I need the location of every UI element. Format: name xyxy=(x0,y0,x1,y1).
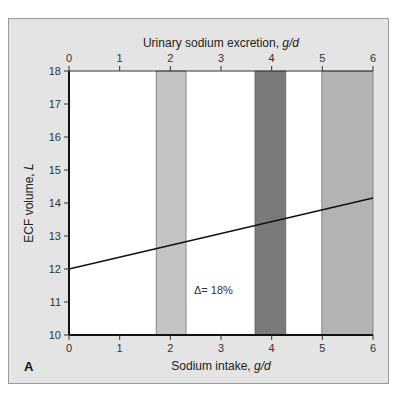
x-tick-label: 3 xyxy=(218,342,224,354)
y-tick-label: 11 xyxy=(50,296,61,308)
chart-svg: 101112131415161718 0123456 0123456 Urina… xyxy=(0,0,396,397)
y-tick-label: 13 xyxy=(49,230,61,242)
x-axis-title: Sodium intake, g/d xyxy=(171,359,271,373)
top-x-axis-title: Urinary sodium excretion, g/d xyxy=(143,36,299,50)
x-tick-label: 0 xyxy=(66,342,72,354)
shaded-band xyxy=(322,71,373,335)
y-axis-title: ECF volume, L xyxy=(22,163,36,242)
top-x-tick-label: 1 xyxy=(117,52,123,64)
x-tick-label: 2 xyxy=(167,342,173,354)
top-x-tick-label: 4 xyxy=(269,52,275,64)
x-tick-label: 5 xyxy=(319,342,325,354)
y-tick-label: 17 xyxy=(49,98,61,110)
annotations: Δ= 18% xyxy=(194,284,233,296)
top-x-tick-label: 0 xyxy=(66,52,72,64)
x-axis-ticks: 0123456 xyxy=(66,335,376,354)
shaded-band xyxy=(156,71,186,335)
y-tick-label: 14 xyxy=(49,197,61,209)
top-x-tick-label: 6 xyxy=(370,52,376,64)
panel-label: A xyxy=(24,359,34,374)
y-tick-label: 18 xyxy=(49,65,61,77)
delta-annotation: Δ= 18% xyxy=(194,284,233,296)
x-tick-label: 4 xyxy=(269,342,275,354)
y-tick-label: 12 xyxy=(49,263,61,275)
y-tick-label: 16 xyxy=(49,131,61,143)
y-tick-label: 10 xyxy=(49,329,61,341)
top-x-tick-label: 5 xyxy=(319,52,325,64)
x-tick-label: 1 xyxy=(117,342,123,354)
shaded-band xyxy=(255,71,286,335)
y-axis-ticks: 101112131415161718 xyxy=(49,65,69,341)
top-x-tick-label: 2 xyxy=(167,52,173,64)
x-tick-label: 6 xyxy=(370,342,376,354)
y-tick-label: 15 xyxy=(49,164,61,176)
top-x-tick-label: 3 xyxy=(218,52,224,64)
top-x-axis-ticks: 0123456 xyxy=(66,52,376,71)
